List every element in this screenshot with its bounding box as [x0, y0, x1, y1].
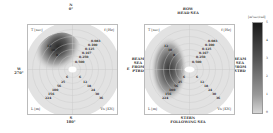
l-tick: 6: [66, 75, 68, 79]
north-degree: 0°: [64, 8, 78, 12]
beam-sea-stbd-label: STBD: [233, 70, 247, 74]
head-sea-label: HEAD SEA: [170, 12, 206, 16]
t-tick: 10: [168, 48, 172, 52]
v-tick: 6: [196, 75, 198, 79]
colorbar-unit: [m²sec/rad]: [248, 15, 266, 19]
l-tick: 6: [183, 75, 185, 79]
f-hz-label: f [Hz]: [104, 28, 114, 32]
west-degree: 270°: [11, 72, 27, 76]
colorbar-tick: 5: [266, 20, 268, 24]
left-polar-spectrum: [28, 25, 117, 114]
v-tick: 36: [216, 96, 220, 100]
colorbar-tick: 0: [266, 110, 268, 114]
t-tick: 8: [173, 53, 175, 57]
v-tick: 36: [99, 96, 103, 100]
f-tick: 0.250: [196, 55, 205, 59]
vs-kn-label: Vs [KN]: [101, 107, 114, 111]
l-tick: 25: [61, 80, 65, 84]
l-tick: 224: [162, 96, 168, 100]
colorbar: [252, 22, 263, 114]
f-tick: 0.500: [75, 60, 84, 64]
t-sec-label: T [sec]: [31, 28, 43, 32]
f-hz-label: f [Hz]: [221, 28, 231, 32]
colorbar-tick: 2: [266, 74, 268, 78]
colorbar-tick: 4: [266, 38, 268, 42]
l-m-label: L [m]: [31, 107, 40, 111]
f-tick: 0.500: [192, 60, 201, 64]
following-sea-label: FOLLOWING SEA: [164, 121, 212, 125]
beam-sea-ptbd-label: PTBD: [131, 70, 145, 74]
right-plot-area: T [sec] f [Hz] L [m] Vs [KN] 12 10 8 0.0…: [144, 24, 235, 115]
t-tick: 8: [56, 53, 58, 57]
v-tick: 6: [79, 75, 81, 79]
t-tick: 10: [51, 48, 55, 52]
l-tick: 25: [178, 80, 182, 84]
f-tick: 0.250: [79, 55, 88, 59]
south-degree: 180°: [62, 121, 80, 125]
colorbar-tick: 3: [266, 56, 268, 60]
vs-kn-label: Vs [KN]: [218, 107, 231, 111]
left-plot-area: T [sec] f [Hz] L [m] Vs [KN] 12 10 8 0.0…: [27, 24, 118, 115]
l-tick: 224: [45, 96, 51, 100]
right-polar-spectrum: [145, 25, 234, 114]
t-sec-label: T [sec]: [148, 28, 160, 32]
colorbar-tick: 1: [266, 92, 268, 96]
l-m-label: L [m]: [148, 107, 157, 111]
